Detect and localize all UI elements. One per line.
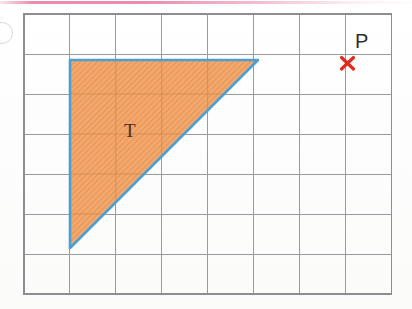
triangle-label: T <box>124 121 136 140</box>
point-label: P <box>355 31 368 51</box>
grid-and-shapes-svg <box>0 0 412 309</box>
figure-canvas: T P <box>0 0 412 309</box>
triangle-T-shape[interactable] <box>70 60 258 248</box>
point-P-marker[interactable] <box>342 58 354 70</box>
